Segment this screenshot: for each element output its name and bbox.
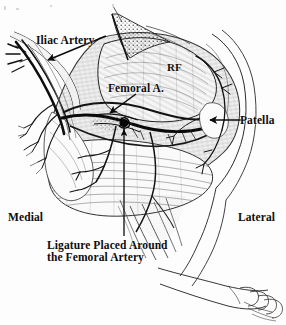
scan-speck [112, 4, 114, 7]
label-ligature-caption: Ligature Placed Around the Femoral Arter… [47, 239, 168, 263]
scan-speck [50, 5, 52, 7]
ligature-caption-line1: Ligature Placed Around [47, 239, 168, 251]
ligature-caption-line2: the Femoral Artery [47, 251, 168, 263]
label-iliac-artery: Iliac Artery [36, 34, 94, 46]
illustration-canvas [0, 0, 286, 325]
scan-speck [4, 6, 6, 10]
anatomical-figure: Iliac Artery Femoral A. RF Patella Media… [0, 0, 286, 325]
label-medial: Medial [8, 211, 43, 223]
label-lateral: Lateral [238, 211, 275, 223]
scan-speck [16, 8, 19, 10]
label-rectus-femoris: RF [167, 62, 182, 74]
label-femoral-artery: Femoral A. [108, 82, 164, 94]
label-patella: Patella [240, 114, 275, 126]
